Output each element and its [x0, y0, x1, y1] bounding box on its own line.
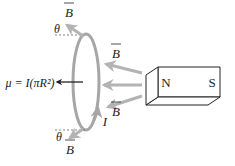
field-arrows	[104, 64, 142, 107]
north-pole-label: N	[161, 75, 171, 90]
current-label: I	[102, 114, 108, 129]
magnet-loop-diagram: S N B B I μ = I(πR²)	[0, 0, 235, 166]
field-label-upper: B	[112, 104, 120, 119]
theta-label-top: θ	[56, 130, 62, 144]
field-label-bottom-edge: B	[65, 5, 73, 20]
field-arrow-lower	[106, 64, 142, 73]
field-arrow-bottom-edge	[67, 25, 83, 36]
south-pole-label: S	[208, 75, 215, 90]
theta-label-bottom: θ	[54, 22, 60, 36]
dipole-moment-label: μ = I(πR²)	[4, 76, 54, 90]
field-label-top-edge: B	[66, 142, 74, 157]
bar-magnet: S N	[146, 67, 220, 105]
field-label-lower: B	[112, 46, 120, 61]
